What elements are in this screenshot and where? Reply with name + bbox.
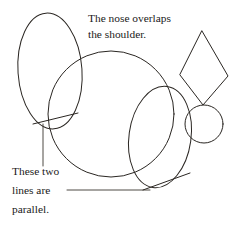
drawing-figure: The nose overlaps the shoulder. These tw… <box>0 0 232 229</box>
bottom-caption-line-1: These two <box>12 165 59 177</box>
bottom-caption-line-2: lines are <box>12 184 50 196</box>
top-caption-line-2: the shoulder. <box>88 28 146 40</box>
bottom-caption-line-3: parallel. <box>12 203 49 215</box>
top-caption-line-1: The nose overlaps <box>88 12 171 24</box>
